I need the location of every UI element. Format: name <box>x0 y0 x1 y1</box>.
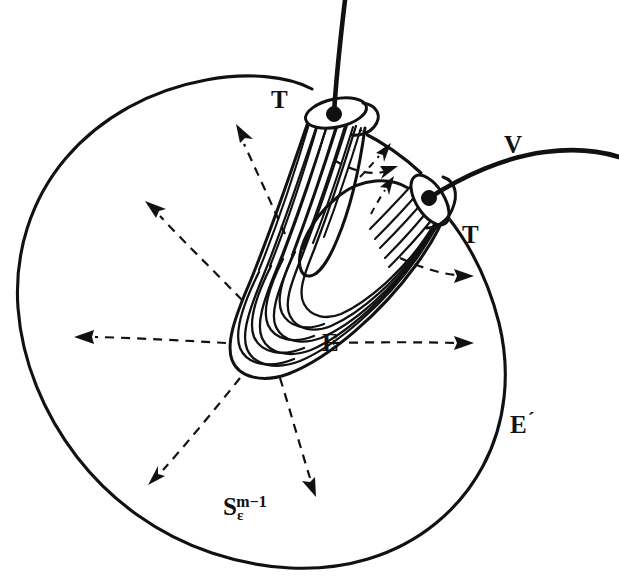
label-sphere-base: S <box>223 493 237 520</box>
flow-arrow-down-left <box>148 466 165 485</box>
label-tube-body-E: E <box>322 330 339 355</box>
flow-arrow-up <box>236 124 253 143</box>
label-exterior-prime-mark: ´ <box>528 408 535 432</box>
flow-arrow-right-upper <box>454 269 474 283</box>
vector-curve-right <box>429 150 619 198</box>
flow-line-right-lower <box>333 342 455 343</box>
flow-arrow-right-lower <box>454 336 474 350</box>
label-tube-upper-T: T <box>271 87 288 112</box>
label-tube-right-T: T <box>462 222 479 247</box>
figure-canvas: T T E V E´ Sεm−1 <box>0 0 619 576</box>
label-exterior-E-base: E <box>510 411 527 438</box>
flow-line-up-left <box>160 216 242 300</box>
flow-line-left <box>95 337 226 343</box>
label-vector-field-V: V <box>504 132 522 157</box>
label-exterior-region-E-prime: E´ <box>510 410 535 437</box>
label-sphere-superscript: m−1 <box>236 493 266 510</box>
flow-line-down <box>280 378 310 478</box>
vector-field-curves <box>334 0 619 198</box>
label-sphere-S-epsilon-m-minus-1: Sεm−1 <box>223 494 267 523</box>
flow-arrow-left <box>74 330 94 344</box>
flow-arrow-up-left <box>145 201 166 218</box>
flow-line-down-left <box>163 378 240 470</box>
flow-arrow-down <box>302 477 316 497</box>
diagram-svg <box>0 0 619 576</box>
